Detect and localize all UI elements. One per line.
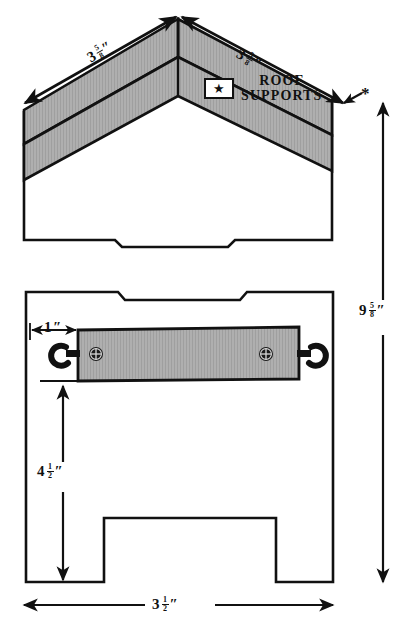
callout-text-block: ROOF SUPPORTS <box>241 74 322 103</box>
dimension-label-bottom-width: 312″ <box>152 596 178 612</box>
callout-line-1: ROOF <box>241 74 322 89</box>
asterisk-leader-line <box>344 93 362 103</box>
drawing-sheet: 358″ 358″ ★ ROOF SUPPORTS * 958″ 1″ 412″… <box>0 0 410 630</box>
dimension-label-total-height: 958″ <box>359 302 385 318</box>
callout-line-2: SUPPORTS <box>241 89 322 104</box>
phillips-screw-icon-right <box>259 347 273 361</box>
dimension-label-support-height: 412″ <box>37 463 63 479</box>
top-view-gable <box>24 19 332 247</box>
phillips-screw-icon-left <box>89 347 103 361</box>
asterisk-marker: * <box>361 85 370 102</box>
dimension-label-inset: 1″ <box>44 320 62 335</box>
star-icon: ★ <box>204 78 234 99</box>
roof-supports-callout: ★ ROOF SUPPORTS <box>204 74 322 103</box>
support-bar <box>51 327 326 381</box>
